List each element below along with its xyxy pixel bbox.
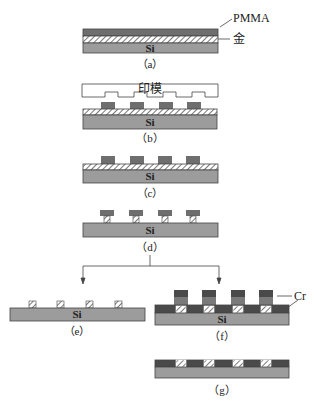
gold-pillar (104, 216, 110, 223)
gold-feature (86, 301, 93, 308)
gold-pillar (162, 216, 168, 223)
gold-feature (57, 301, 64, 308)
pmma-block (158, 210, 172, 216)
pmma-layer (83, 29, 218, 36)
pmma-block (174, 297, 188, 305)
si-label: Si (217, 313, 226, 325)
gold-feature (176, 360, 186, 367)
si-label: Si (145, 170, 154, 182)
caption-b: （b） (136, 132, 164, 144)
caption-a: （a） (137, 58, 164, 70)
pmma-block (158, 156, 172, 164)
gold-feature (261, 360, 271, 367)
pmma-block (231, 297, 245, 305)
si-substrate (155, 367, 289, 378)
gold-label: 金 (233, 31, 245, 46)
gold-pillar (190, 216, 196, 223)
pmma-block (129, 210, 143, 216)
gold-feature (29, 301, 36, 308)
pmma-block (186, 210, 200, 216)
pmma-block (130, 156, 144, 164)
step-d: Si （d） (83, 210, 218, 253)
cr-cap (174, 290, 188, 297)
caption-f: （f） (209, 330, 235, 342)
step-f: Si Cr （f） (155, 289, 306, 342)
step-e: Si （e） (10, 301, 145, 337)
gold-feature (261, 306, 271, 313)
pmma-block (186, 156, 200, 164)
cr-cap (202, 290, 216, 297)
gold-feature (233, 306, 243, 313)
pmma-block (259, 297, 273, 305)
si-label: Si (145, 42, 154, 54)
branch-arrows (81, 255, 221, 284)
si-label: Si (145, 224, 154, 236)
cr-label: Cr (294, 289, 306, 303)
si-label: Si (72, 308, 81, 320)
pmma-block (101, 156, 115, 164)
gold-feature (115, 301, 122, 308)
fabrication-process-diagram: Si PMMA 金 （a） 印模 Si （b） Si （c） (0, 0, 314, 401)
gold-feature (204, 306, 214, 313)
cr-cap (231, 290, 245, 297)
si-label: Si (145, 116, 154, 128)
step-b: 印模 Si （b） (82, 82, 218, 144)
pmma-block (100, 210, 114, 216)
gold-feature (233, 360, 243, 367)
step-c: Si （c） (83, 156, 218, 199)
step-g: （g） (155, 360, 289, 396)
gold-feature (204, 360, 214, 367)
stamp-label: 印模 (138, 82, 162, 96)
pmma-block (101, 102, 115, 109)
pmma-block (202, 297, 216, 305)
pmma-block (130, 102, 144, 109)
caption-d: （d） (136, 241, 164, 253)
arrow-head-right-icon (217, 278, 221, 284)
gold-pillar (133, 216, 139, 223)
pmma-block (159, 102, 173, 109)
pmma-leader-line (220, 19, 232, 27)
pmma-block (187, 102, 201, 109)
caption-g: （g） (208, 384, 236, 396)
gold-layer (83, 109, 217, 115)
caption-c: （c） (137, 187, 164, 199)
arrow-head-left-icon (81, 278, 85, 284)
step-a: Si PMMA 金 （a） (83, 11, 270, 70)
gold-feature (176, 306, 186, 313)
cr-cap (259, 290, 273, 297)
pmma-label: PMMA (233, 11, 270, 25)
caption-e: （e） (64, 325, 91, 337)
